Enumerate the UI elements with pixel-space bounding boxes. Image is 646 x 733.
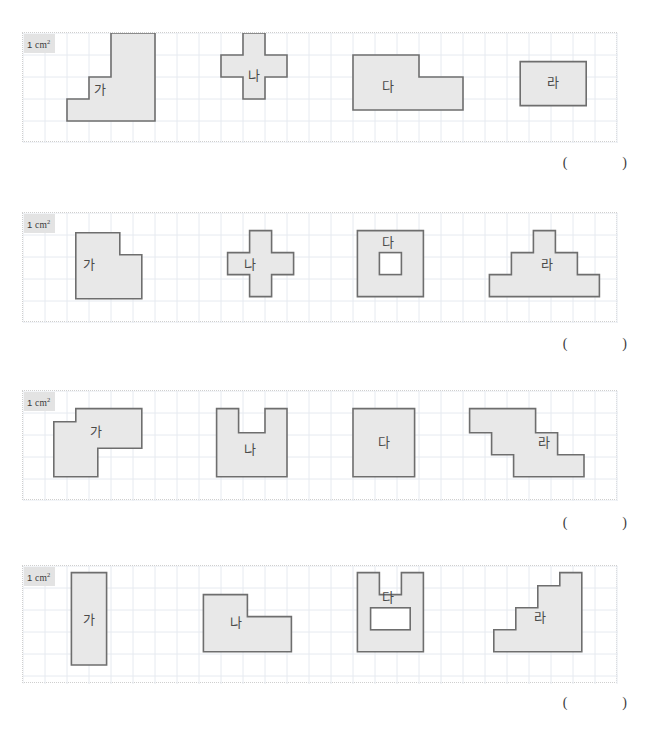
- shape-ra: 라: [489, 231, 599, 297]
- shape-da-outline: [353, 55, 463, 110]
- unit-number: 1: [27, 39, 32, 50]
- answer-blank[interactable]: (): [563, 695, 628, 711]
- shape-da-label: 다: [378, 435, 390, 450]
- shape-da: 다: [357, 231, 423, 297]
- shape-da-label: 다: [382, 590, 394, 605]
- problem-block: 1 cm2가나다라: [22, 212, 617, 322]
- unit-area-label: 1 cm2: [24, 567, 55, 586]
- shape-ga-outline: [54, 409, 142, 477]
- paren-open: (: [563, 515, 569, 530]
- shape-da-hole: [379, 253, 401, 275]
- paren-open: (: [563, 336, 569, 351]
- unit-number: 1: [27, 219, 32, 230]
- unit-text: cm: [35, 40, 47, 50]
- shape-ga: 가: [54, 409, 142, 477]
- unit-exponent: 2: [47, 571, 50, 578]
- shapes-layer: 가나다라: [23, 566, 618, 684]
- shape-da: 다: [357, 573, 423, 652]
- grid-panel: 1 cm2가나다라: [22, 565, 617, 683]
- unit-exponent: 2: [47, 218, 50, 225]
- shape-da-label: 다: [382, 235, 394, 250]
- shape-ga-label: 가: [94, 82, 106, 97]
- problem-block: 1 cm2가나다라: [22, 565, 617, 683]
- shape-ra-label: 라: [534, 610, 546, 625]
- shape-na: 나: [221, 33, 287, 99]
- paren-open: (: [563, 155, 569, 170]
- unit-area-label: 1 cm2: [24, 392, 55, 411]
- shape-da-label: 다: [382, 79, 394, 94]
- shape-na-label: 나: [244, 257, 256, 272]
- shape-ga-label: 가: [83, 257, 95, 272]
- shape-ra-label: 라: [538, 435, 550, 450]
- shape-na-outline: [203, 595, 291, 652]
- unit-area-label: 1 cm2: [24, 34, 55, 53]
- shape-na-outline: [221, 33, 287, 99]
- shape-ra: 라: [470, 409, 584, 477]
- shapes-layer: 가나다라: [23, 33, 618, 143]
- shape-na: 나: [228, 231, 294, 297]
- grid-panel: 1 cm2가나다라: [22, 32, 617, 142]
- shape-ga-label: 가: [83, 612, 95, 627]
- unit-exponent: 2: [47, 396, 50, 403]
- shape-na: 나: [203, 595, 291, 652]
- answer-blank[interactable]: (): [563, 515, 628, 531]
- paren-close: ): [622, 515, 628, 530]
- paren-close: ): [622, 155, 628, 170]
- unit-number: 1: [27, 397, 32, 408]
- shape-na-label: 나: [230, 615, 242, 630]
- grid-panel: 1 cm2가나다라: [22, 212, 617, 322]
- shape-ga-label: 가: [90, 424, 102, 439]
- unit-number: 1: [27, 572, 32, 583]
- problem-block: 1 cm2가나다라: [22, 32, 617, 142]
- answer-blank[interactable]: (): [563, 336, 628, 352]
- unit-text: cm: [35, 220, 47, 230]
- shape-na-label: 나: [248, 68, 260, 83]
- unit-exponent: 2: [47, 38, 50, 45]
- shape-da: 다: [353, 55, 463, 110]
- shape-ga: 가: [76, 233, 142, 299]
- shape-na-outline: [228, 231, 294, 297]
- shape-ra: 라: [520, 62, 586, 106]
- problem-block: 1 cm2가나다라: [22, 390, 617, 500]
- paren-open: (: [563, 695, 569, 710]
- shape-ra-outline: [470, 409, 584, 477]
- paren-close: ): [622, 336, 628, 351]
- shape-ga-outline: [67, 33, 155, 121]
- answer-blank[interactable]: (): [563, 155, 628, 171]
- unit-text: cm: [35, 398, 47, 408]
- grid-panel: 1 cm2가나다라: [22, 390, 617, 500]
- shape-ra: 라: [494, 573, 582, 652]
- shape-da: 다: [353, 409, 415, 477]
- shape-na-label: 나: [244, 442, 256, 457]
- shape-na: 나: [217, 409, 287, 477]
- shapes-layer: 가나다라: [23, 391, 618, 501]
- shape-ga: 가: [67, 33, 155, 121]
- unit-area-label: 1 cm2: [24, 214, 55, 233]
- shape-ra-label: 라: [541, 257, 553, 272]
- unit-text: cm: [35, 573, 47, 583]
- paren-close: ): [622, 695, 628, 710]
- shape-da-hole: [371, 608, 411, 630]
- shape-ra-label: 라: [547, 75, 559, 90]
- shapes-layer: 가나다라: [23, 213, 618, 323]
- shape-ga: 가: [71, 573, 106, 665]
- worksheet: 1 cm2가나다라()1 cm2가나다라()1 cm2가나다라()1 cm2가나…: [0, 0, 646, 733]
